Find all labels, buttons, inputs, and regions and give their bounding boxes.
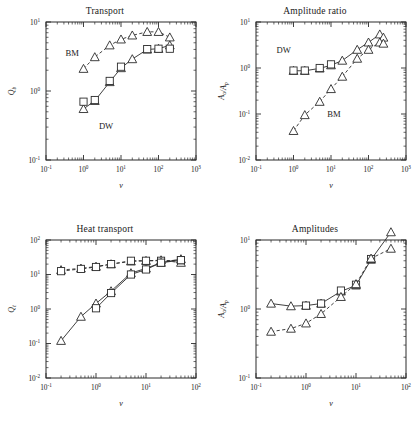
svg-text:100: 100 — [240, 63, 250, 73]
svg-text:BM: BM — [327, 109, 341, 119]
svg-text:100: 100 — [30, 86, 40, 96]
svg-text:100: 100 — [91, 382, 101, 392]
svg-text:10-1: 10-1 — [238, 373, 250, 383]
panel-transport: Transport 10-110010110210310-1100101vQbB… — [0, 0, 210, 218]
svg-text:100: 100 — [301, 382, 311, 392]
svg-text:103: 103 — [191, 164, 201, 174]
panel-amplitudes: Amplitudes 10-110010110210-1100101vAo/Ap — [210, 218, 420, 436]
svg-text:100: 100 — [79, 164, 89, 174]
svg-text:10-1: 10-1 — [250, 382, 262, 392]
panel-amplitude-ratio: Amplitude ratio 10-110010110210310-210-1… — [210, 0, 420, 218]
svg-text:101: 101 — [326, 164, 336, 174]
svg-text:10-1: 10-1 — [40, 382, 52, 392]
svg-text:101: 101 — [30, 269, 40, 279]
plot-amplitudes: 10-110010110210-1100101vAo/Ap — [210, 218, 420, 436]
figure-container: Transport 10-110010110210310-1100101vQbB… — [0, 0, 420, 436]
svg-text:101: 101 — [30, 17, 40, 27]
svg-text:102: 102 — [30, 235, 40, 245]
svg-text:10-2: 10-2 — [238, 155, 250, 165]
svg-text:10-1: 10-1 — [28, 338, 40, 348]
svg-text:Ao/Ap: Ao/Ap — [217, 82, 229, 101]
svg-text:101: 101 — [240, 17, 250, 27]
svg-text:BM: BM — [66, 48, 80, 58]
plot-amplitude-ratio: 10-110010110210310-210-1100101vAo/ApDWBM — [210, 0, 420, 218]
svg-text:10-1: 10-1 — [238, 109, 250, 119]
svg-text:100: 100 — [30, 304, 40, 314]
svg-text:10-1: 10-1 — [40, 164, 52, 174]
panel-heat-transport: Heat transport 10-110010110210-210-11001… — [0, 218, 210, 436]
svg-text:10-1: 10-1 — [28, 155, 40, 165]
svg-text:Qt: Qt — [7, 305, 17, 313]
svg-text:101: 101 — [141, 382, 151, 392]
svg-text:101: 101 — [240, 235, 250, 245]
plot-transport: 10-110010110210310-1100101vQbBMDW — [0, 0, 210, 218]
svg-text:v: v — [329, 181, 333, 190]
svg-text:101: 101 — [351, 382, 361, 392]
svg-text:100: 100 — [240, 304, 250, 314]
svg-text:Qb: Qb — [7, 86, 17, 95]
svg-text:102: 102 — [364, 164, 374, 174]
svg-text:102: 102 — [401, 382, 411, 392]
svg-text:v: v — [119, 399, 123, 408]
svg-text:v: v — [119, 181, 123, 190]
svg-text:10-2: 10-2 — [28, 373, 40, 383]
svg-text:Ao/Ap: Ao/Ap — [217, 300, 229, 319]
svg-text:101: 101 — [116, 164, 126, 174]
svg-text:103: 103 — [401, 164, 411, 174]
svg-text:v: v — [329, 399, 333, 408]
svg-text:102: 102 — [191, 382, 201, 392]
plot-heat-transport: 10-110010110210-210-1100101102vQt — [0, 218, 210, 436]
svg-text:10-1: 10-1 — [250, 164, 262, 174]
svg-text:DW: DW — [99, 121, 114, 131]
svg-text:100: 100 — [289, 164, 299, 174]
svg-text:DW: DW — [277, 45, 292, 55]
svg-text:102: 102 — [154, 164, 164, 174]
